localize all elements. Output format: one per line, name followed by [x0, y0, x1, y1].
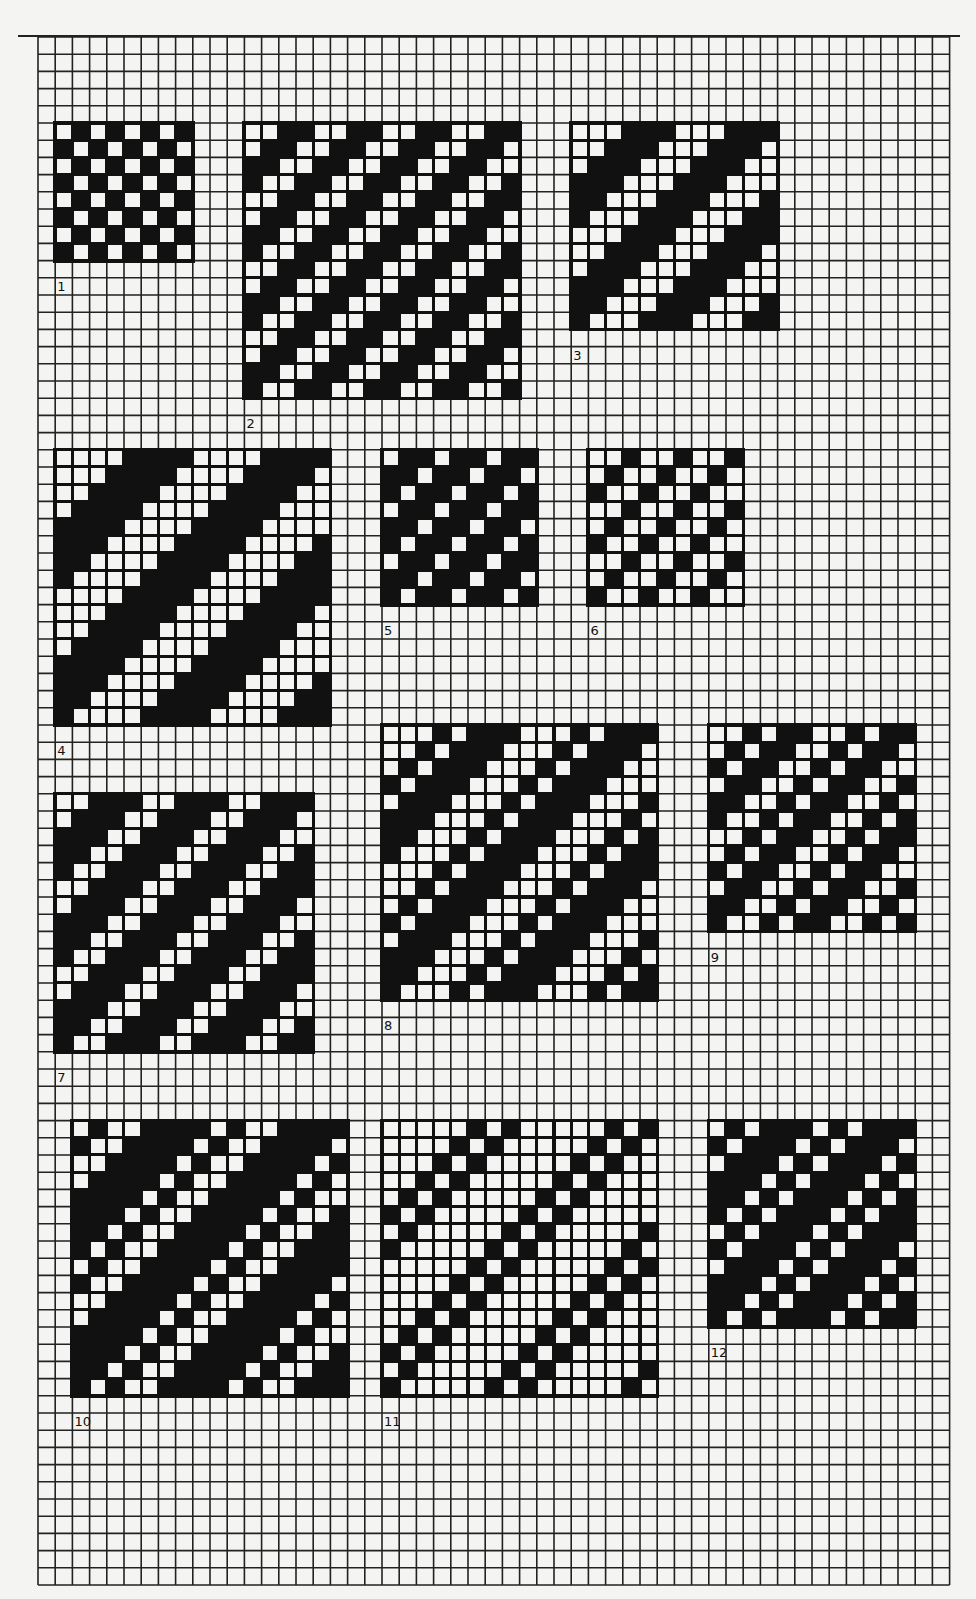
white-cell — [727, 279, 741, 293]
white-cell — [487, 554, 501, 568]
white-cell — [710, 778, 724, 792]
white-cell — [125, 193, 139, 207]
white-cell — [315, 486, 329, 500]
white-cell — [91, 1380, 105, 1394]
white-cell — [246, 864, 260, 878]
white-cell — [470, 847, 484, 861]
white-cell — [762, 778, 776, 792]
white-cell — [263, 950, 277, 964]
white-cell — [418, 899, 432, 913]
white-cell — [280, 640, 294, 654]
white-cell — [624, 314, 638, 328]
white-cell — [762, 795, 776, 809]
white-cell — [607, 1346, 621, 1360]
white-cell — [74, 1122, 88, 1136]
white-cell — [624, 1311, 638, 1325]
white-cell — [57, 640, 71, 654]
white-cell — [538, 1139, 552, 1153]
white-cell — [91, 1242, 105, 1256]
white-cell — [607, 1174, 621, 1188]
white-cell — [573, 1363, 587, 1377]
white-cell — [315, 211, 329, 225]
white-cell — [504, 778, 518, 792]
white-cell — [607, 1191, 621, 1205]
white-cell — [297, 675, 311, 689]
white-cell — [642, 899, 656, 913]
white-cell — [504, 744, 518, 758]
white-cell — [762, 881, 776, 895]
white-cell — [435, 1242, 449, 1256]
white-cell — [624, 176, 638, 190]
white-cell — [125, 520, 139, 534]
white-cell — [504, 1294, 518, 1308]
white-cell — [108, 709, 122, 723]
pattern-number-label: 5 — [384, 624, 392, 637]
white-cell — [710, 847, 724, 861]
white-cell — [57, 503, 71, 517]
white-cell — [366, 159, 380, 173]
white-cell — [882, 881, 896, 895]
white-cell — [384, 864, 398, 878]
white-cell — [470, 520, 484, 534]
white-cell — [521, 1328, 535, 1342]
white-cell — [521, 1225, 535, 1239]
white-cell — [108, 1139, 122, 1153]
white-cell — [91, 572, 105, 586]
white-cell — [383, 211, 397, 225]
white-cell — [177, 486, 191, 500]
white-cell — [899, 1277, 913, 1291]
white-cell — [177, 176, 191, 190]
white-cell — [108, 830, 122, 844]
weave-pattern-10 — [72, 1121, 347, 1396]
white-cell — [642, 1208, 656, 1222]
white-cell — [246, 348, 260, 362]
white-cell — [556, 1260, 570, 1274]
white-cell — [246, 193, 260, 207]
white-cell — [676, 537, 690, 551]
white-cell — [349, 228, 363, 242]
white-cell — [693, 468, 707, 482]
white-cell — [401, 1277, 415, 1291]
white-cell — [418, 1139, 432, 1153]
white-cell — [624, 1346, 638, 1360]
white-cell — [366, 348, 380, 362]
white-cell — [125, 984, 139, 998]
white-cell — [91, 709, 105, 723]
white-cell — [418, 1156, 432, 1170]
white-cell — [607, 950, 621, 964]
white-cell — [177, 1346, 191, 1360]
white-cell — [745, 916, 759, 930]
white-cell — [727, 1311, 741, 1325]
white-cell — [315, 1328, 329, 1342]
white-cell — [435, 1363, 449, 1377]
white-cell — [659, 589, 673, 603]
white-cell — [452, 1242, 466, 1256]
white-cell — [401, 125, 415, 139]
white-cell — [401, 193, 415, 207]
white-cell — [366, 365, 380, 379]
white-cell — [91, 692, 105, 706]
white-cell — [315, 1156, 329, 1170]
white-cell — [469, 125, 483, 139]
white-cell — [160, 1311, 174, 1325]
white-cell — [366, 228, 380, 242]
white-cell — [384, 554, 398, 568]
white-cell — [590, 1328, 604, 1342]
white-cell — [194, 847, 208, 861]
white-cell — [211, 830, 225, 844]
white-cell — [194, 1277, 208, 1291]
white-cell — [315, 279, 329, 293]
white-cell — [693, 125, 707, 139]
white-cell — [143, 142, 157, 156]
white-cell — [745, 1225, 759, 1239]
white-cell — [762, 1174, 776, 1188]
weave-pattern-6 — [588, 450, 743, 605]
white-cell — [573, 1122, 587, 1136]
weave-pattern-7 — [55, 794, 313, 1052]
white-cell — [91, 1277, 105, 1291]
white-cell — [470, 1191, 484, 1205]
white-cell — [297, 1311, 311, 1325]
white-cell — [710, 744, 724, 758]
white-cell — [469, 193, 483, 207]
white-cell — [848, 1191, 862, 1205]
